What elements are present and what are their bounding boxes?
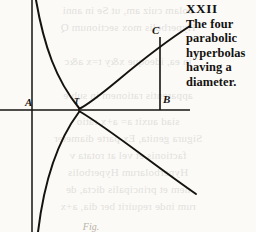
caption-line-5: diameter. xyxy=(186,75,256,90)
point-label-C: C xyxy=(152,24,159,36)
plate-number: XXII xyxy=(186,2,256,17)
caption-line-4: having a xyxy=(186,60,256,75)
figure-page: bolam cuiz am, ut Se in anni Hyperbolis … xyxy=(0,0,256,232)
curve-upper-right-branch xyxy=(79,26,190,109)
caption-line-2: parabolic xyxy=(186,31,256,46)
curve-lower-left-branch xyxy=(38,112,79,232)
curve-lower-right-branch xyxy=(79,111,196,194)
plate-caption: XXII The four parabolic hyperbolas havin… xyxy=(186,2,256,90)
caption-line-1: The four xyxy=(186,17,256,32)
point-label-B: B xyxy=(163,93,170,105)
caption-line-3: hyperbolas xyxy=(186,46,256,61)
point-label-A: A xyxy=(25,96,32,108)
curve-upper-left-branch xyxy=(36,0,79,108)
figure-caption-below: Fig. xyxy=(36,221,146,232)
point-label-T: T xyxy=(74,96,79,106)
